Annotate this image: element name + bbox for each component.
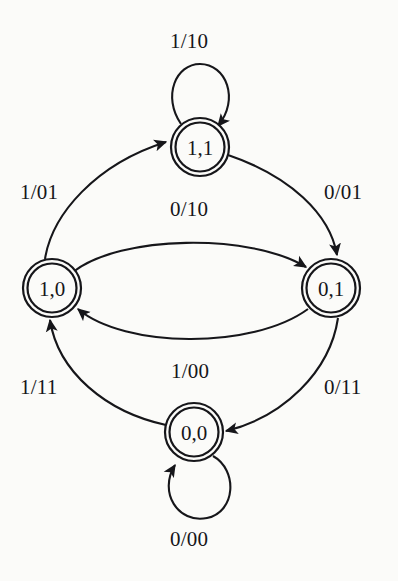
transition-edge-01-to-10 bbox=[78, 309, 308, 339]
transition-label-11-to-11: 1/10 bbox=[170, 31, 208, 52]
edge-path-11-to-01 bbox=[228, 155, 337, 255]
transition-label-00-to-00: 0/00 bbox=[170, 529, 208, 550]
edge-path-self-loop-11 bbox=[172, 64, 229, 126]
state-label-00: 0,0 bbox=[181, 423, 207, 444]
transition-label-01-to-10: 1/00 bbox=[171, 361, 209, 382]
edge-path-10-to-01 bbox=[73, 243, 306, 272]
transition-edge-11-to-11 bbox=[172, 64, 229, 126]
transition-edge-11-to-01 bbox=[228, 155, 337, 255]
transition-edge-00-to-00 bbox=[169, 456, 231, 519]
state-label-10: 1,0 bbox=[39, 279, 65, 300]
transition-edge-10-to-01 bbox=[73, 243, 306, 272]
edge-path-01-to-10 bbox=[78, 309, 308, 339]
edge-path-self-loop-00 bbox=[169, 456, 231, 519]
transition-label-00-to-10: 1/11 bbox=[20, 377, 57, 398]
transition-label-11-to-01: 0/01 bbox=[324, 182, 362, 203]
transition-edge-10-to-11 bbox=[45, 142, 166, 259]
transition-label-10-to-11: 1/01 bbox=[20, 182, 58, 203]
state-label-01: 0,1 bbox=[318, 279, 344, 300]
transition-label-01-to-00: 0/11 bbox=[324, 377, 361, 398]
transition-label-10-to-01: 0/10 bbox=[170, 199, 208, 220]
edge-path-10-to-11 bbox=[45, 142, 166, 259]
state-label-11: 1,1 bbox=[187, 138, 213, 159]
state-diagram-page: 1,1 1,0 0,1 0,0 1/10 1/01 0/01 0/10 1/00… bbox=[0, 0, 398, 581]
